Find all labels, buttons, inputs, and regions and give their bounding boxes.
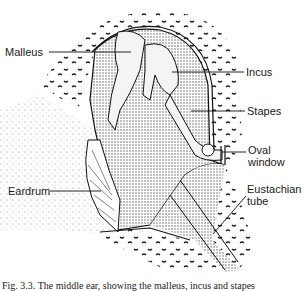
label-stapes: Stapes: [247, 105, 281, 117]
figure-caption: Fig. 3.3. The middle ear, showing the ma…: [2, 280, 255, 291]
label-window: window: [248, 156, 285, 168]
label-incus: Incus: [246, 66, 272, 78]
label-eustachian: Eustachian: [247, 183, 301, 195]
label-tube: tube: [247, 195, 268, 207]
label-oval: Oval: [248, 144, 271, 156]
label-malleus: Malleus: [5, 46, 43, 58]
label-eardrum: Eardrum: [8, 185, 50, 197]
